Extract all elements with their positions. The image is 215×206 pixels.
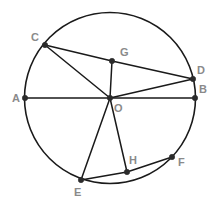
labels-group: ABCDEFGHO (12, 31, 207, 198)
vertex-point-C (42, 42, 47, 47)
vertex-label-F: F (178, 156, 185, 168)
segment-G-D (112, 61, 193, 79)
geometry-diagram: ABCDEFGHO (0, 0, 215, 206)
vertex-point-O (107, 95, 112, 100)
segment-O-D (110, 79, 193, 98)
vertex-label-E: E (74, 186, 81, 198)
vertex-label-O: O (114, 102, 123, 114)
vertex-point-E (78, 177, 83, 182)
vertex-label-A: A (12, 92, 20, 104)
vertex-label-G: G (120, 46, 129, 58)
geometry-canvas: ABCDEFGHO (0, 0, 215, 206)
vertex-point-D (190, 76, 195, 81)
segment-O-E (81, 98, 110, 180)
segment-G-O (110, 61, 112, 98)
vertex-point-A (22, 95, 27, 100)
vertex-label-H: H (129, 154, 137, 166)
vertex-label-D: D (197, 64, 205, 76)
vertex-point-F (169, 154, 174, 159)
segment-E-H (81, 172, 127, 180)
vertex-label-B: B (199, 83, 207, 95)
vertex-label-C: C (31, 31, 39, 43)
vertex-point-B (192, 95, 197, 100)
vertex-point-H (124, 169, 129, 174)
vertex-point-G (109, 58, 114, 63)
vertices-group (22, 42, 197, 182)
